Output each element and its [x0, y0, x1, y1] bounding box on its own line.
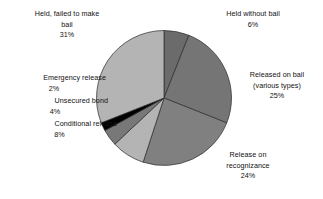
slice-label-line2: recognizance	[201, 161, 295, 172]
slice-label-held-failed-to-make-bail: Held, failed to make bail 31%	[8, 9, 126, 41]
slice-label-line2: bail	[8, 20, 126, 31]
slice-label-line1: Conditional release	[2, 119, 117, 130]
slice-label-line2: (various types)	[233, 81, 321, 92]
slice-label-line1: Emergency release	[2, 73, 106, 84]
slice-label-released-on-bail: Released on bail (various types) 25%	[233, 70, 321, 102]
slice-label-line1: Unsecured bond	[2, 96, 108, 107]
slice-label-line1: Held without bail	[200, 9, 306, 20]
slice-value-emergency-release: 2%	[2, 84, 106, 95]
slice-label-held-without-bail: Held without bail 6%	[200, 9, 306, 30]
pie-chart-graphic	[96, 29, 232, 169]
slice-value-conditional-release: 8%	[2, 130, 117, 141]
slice-value-unsecured-bond: 4%	[2, 107, 108, 118]
slice-value-release-on-recognizance: 24%	[201, 171, 295, 182]
slice-value-held-failed-to-make-bail: 31%	[8, 30, 126, 41]
slice-label-line1: Held, failed to make	[8, 9, 126, 20]
slice-label-emergency-release: Emergency release 2%	[2, 73, 106, 94]
slice-label-conditional-release: Conditional release 8%	[2, 119, 117, 140]
slice-label-line1: Released on bail	[233, 70, 321, 81]
pie-svg	[96, 29, 232, 169]
slice-label-line1: Release on	[201, 150, 295, 161]
slice-label-release-on-recognizance: Release on recognizance 24%	[201, 150, 295, 182]
slice-value-held-without-bail: 6%	[200, 20, 306, 31]
pie-chart-figure: Held, failed to make bail 31% Held witho…	[0, 0, 323, 199]
slice-value-released-on-bail: 25%	[233, 91, 321, 102]
pie-slices-group	[96, 31, 231, 166]
slice-label-unsecured-bond: Unsecured bond 4%	[2, 96, 108, 117]
